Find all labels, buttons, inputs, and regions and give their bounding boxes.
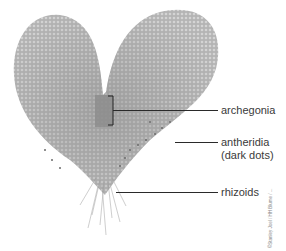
archegonia-leader <box>113 110 218 111</box>
label-antheridia-line2: (dark dots) <box>221 149 274 162</box>
label-archegonia: archegonia <box>221 104 275 117</box>
rhizoids-leader <box>116 192 218 193</box>
label-antheridia: antheridia (dark dots) <box>221 136 274 162</box>
antheridia-leader <box>175 142 218 143</box>
gametophyte-photo <box>0 0 286 251</box>
archegonia-region <box>95 95 113 127</box>
label-antheridia-line1: antheridia <box>221 136 274 149</box>
photo-credit: ©Stanley Joel / HH Blume / ... <box>268 188 273 248</box>
label-rhizoids: rhizoids <box>221 186 259 199</box>
